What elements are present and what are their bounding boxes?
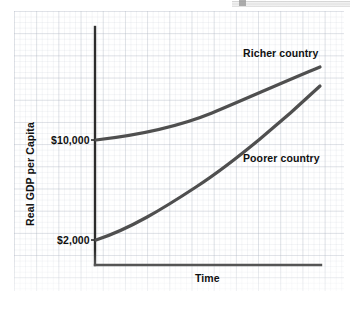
series-label-poorer-country: Poorer country [243, 152, 320, 164]
y-axis-title: Real GDP per Capita [24, 119, 36, 229]
series-curve-richer-country [96, 67, 320, 140]
x-axis-title: Time [195, 272, 220, 284]
y-tick-label-lower: $2,000 [57, 234, 90, 246]
chart-page: Real GDP per Capita $10,000 $2,000 Riche… [0, 0, 356, 314]
series-label-richer-country: Richer country [243, 47, 319, 59]
y-tick-label-upper: $10,000 [51, 134, 90, 146]
